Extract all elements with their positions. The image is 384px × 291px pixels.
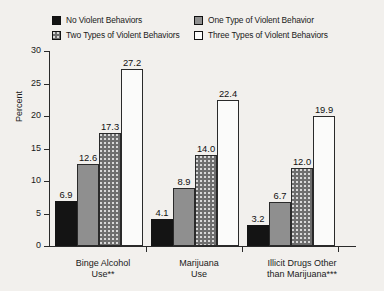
legend-swatch-three-types-of-violent-behaviors-icon	[194, 31, 203, 40]
bar-marijuana-two-types: 14.0	[195, 155, 217, 246]
bar-value-illicit-drugs-one-type: 6.7	[273, 190, 286, 201]
bar-value-binge-alcohol-no-violent-behaviors: 6.9	[59, 189, 72, 200]
legend-label-no-violent-behaviors: No Violent Behaviors	[66, 16, 142, 25]
y-tick-label-0: 0	[36, 240, 41, 251]
bar-binge-alcohol-three-types: 27.2	[121, 69, 143, 246]
bar-value-binge-alcohol-one-type: 12.6	[79, 152, 97, 163]
x-tick-2	[242, 247, 243, 252]
y-tick-label-20: 20	[31, 110, 41, 121]
bar-value-marijuana-no-violent-behaviors: 4.1	[155, 207, 168, 218]
x-category-marijuana-use-line2: Use	[151, 269, 247, 280]
bar-illicit-drugs-three-types: 19.9	[313, 116, 335, 245]
y-tick-label-25: 25	[31, 78, 41, 89]
bar-marijuana-three-types: 22.4	[217, 100, 239, 246]
x-category-illicit-drugs-line1: Illicit Drugs Other	[267, 258, 336, 268]
legend-swatch-no-violent-behaviors-icon	[52, 16, 61, 25]
y-tick-label-10: 10	[31, 175, 41, 186]
bar-marijuana-one-type: 8.9	[173, 188, 195, 246]
y-tick-20: 20	[44, 116, 49, 117]
bar-binge-alcohol-two-types: 17.3	[99, 133, 121, 245]
x-category-label-marijuana-use: Marijuana Use	[151, 258, 247, 280]
bar-group-marijuana-use: 4.1 8.9 14.0 22.4	[151, 51, 243, 246]
x-axis-line	[49, 246, 356, 247]
x-category-label-binge-alcohol-use: Binge Alcohol Use**	[55, 258, 151, 280]
bar-value-illicit-drugs-two-types: 12.0	[293, 156, 311, 167]
y-tick-10: 10	[44, 181, 49, 182]
x-category-illicit-drugs-line2: than Marijuana***	[247, 269, 357, 280]
legend-item-two-types-of-violent-behaviors: Two Types of Violent Behaviors	[52, 28, 194, 42]
legend-label-two-types-of-violent-behaviors: Two Types of Violent Behaviors	[66, 31, 180, 40]
y-tick-15: 15	[44, 149, 49, 150]
bar-illicit-drugs-two-types: 12.0	[291, 168, 313, 246]
x-tick-3	[338, 247, 339, 252]
legend-label-three-types-of-violent-behaviors: Three Types of Violent Behaviors	[208, 31, 328, 40]
bar-value-illicit-drugs-no-violent-behaviors: 3.2	[251, 213, 264, 224]
bar-value-illicit-drugs-three-types: 19.9	[315, 104, 333, 115]
bar-value-binge-alcohol-three-types: 27.2	[123, 57, 141, 68]
legend-swatch-one-type-of-violent-behavior-icon	[194, 16, 203, 25]
bar-value-binge-alcohol-two-types: 17.3	[101, 121, 119, 132]
bar-binge-alcohol-one-type: 12.6	[77, 164, 99, 246]
x-category-marijuana-use-line1: Marijuana	[179, 258, 219, 268]
bar-illicit-drugs-no-violent-behaviors: 3.2	[247, 225, 269, 246]
y-axis-title: Percent	[14, 91, 24, 122]
chart-legend: No Violent Behaviors One Type of Violent…	[52, 13, 342, 42]
legend-item-no-violent-behaviors: No Violent Behaviors	[52, 13, 194, 27]
y-tick-label-5: 5	[36, 208, 41, 219]
bar-chart-figure: No Violent Behaviors One Type of Violent…	[0, 0, 384, 291]
bar-value-marijuana-one-type: 8.9	[177, 176, 190, 187]
legend-swatch-two-types-of-violent-behaviors-icon	[52, 31, 61, 40]
x-category-label-illicit-drugs-other-than-marijuana: Illicit Drugs Other than Marijuana***	[247, 258, 357, 280]
y-tick-25: 25	[44, 84, 49, 85]
bar-group-binge-alcohol-use: 6.9 12.6 17.3 27.2	[55, 51, 147, 246]
legend-label-one-type-of-violent-behavior: One Type of Violent Behavior	[208, 16, 314, 25]
y-tick-5: 5	[44, 214, 49, 215]
y-tick-label-30: 30	[31, 45, 41, 56]
bar-value-marijuana-two-types: 14.0	[197, 143, 215, 154]
bar-binge-alcohol-no-violent-behaviors: 6.9	[55, 201, 77, 246]
x-category-binge-alcohol-use-line1: Binge Alcohol	[76, 258, 131, 268]
bar-marijuana-no-violent-behaviors: 4.1	[151, 219, 173, 246]
y-tick-30: 30	[44, 51, 49, 52]
bar-illicit-drugs-one-type: 6.7	[269, 202, 291, 246]
bar-group-illicit-drugs-other-than-marijuana: 3.2 6.7 12.0 19.9	[247, 51, 339, 246]
y-tick-label-15: 15	[31, 143, 41, 154]
legend-item-one-type-of-violent-behavior: One Type of Violent Behavior	[194, 13, 342, 27]
legend-item-three-types-of-violent-behaviors: Three Types of Violent Behaviors	[194, 28, 342, 42]
bar-value-marijuana-three-types: 22.4	[219, 88, 237, 99]
x-tick-1	[146, 247, 147, 252]
y-tick-0: 0	[44, 246, 49, 247]
plot-area: 30 25 20 15 10 5 0 6.9 12.6	[49, 51, 356, 247]
x-category-binge-alcohol-use-line2: Use**	[55, 269, 151, 280]
y-axis-line	[49, 51, 50, 247]
